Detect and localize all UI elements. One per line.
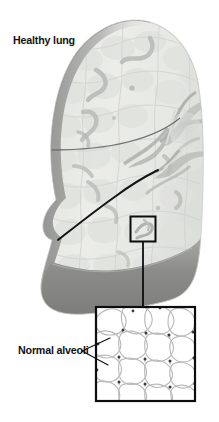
healthy-lung-figure	[0, 0, 219, 422]
healthy-lung-label: Healthy lung	[13, 35, 75, 47]
lung-illustration	[41, 18, 208, 316]
alveoli-inset-panel	[93, 305, 197, 410]
callout-region-box	[131, 217, 156, 242]
normal-alveoli-label: Normal alveoli	[18, 345, 89, 357]
alveoli-cells	[93, 305, 197, 410]
